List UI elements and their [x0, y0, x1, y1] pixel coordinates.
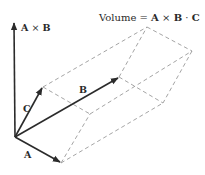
- label-axb: A × B: [20, 22, 50, 33]
- edge-ac-to-abc: [90, 51, 192, 114]
- edge-b-to-bc: [119, 27, 147, 77]
- edge-bc-to-abc: [147, 27, 192, 51]
- edge-abc-to-ab: [163, 51, 192, 103]
- vector-axb: [14, 23, 15, 137]
- label-a: A: [23, 149, 32, 160]
- volume-formula: Volume = A × B · C: [98, 12, 200, 23]
- label-c: C: [23, 103, 31, 114]
- label-b: B: [79, 84, 87, 95]
- parallelepiped-diagram: Volume = A × B · C A × B C B A: [0, 0, 205, 175]
- dashed-edges: [43, 27, 192, 163]
- edge-a-to-ac: [61, 114, 90, 163]
- edge-b-to-ab: [119, 77, 163, 103]
- vector-a: [15, 137, 60, 162]
- edge-a-to-ab: [61, 103, 163, 163]
- edge-c-to-bc: [43, 27, 147, 87]
- vectors: [14, 23, 118, 162]
